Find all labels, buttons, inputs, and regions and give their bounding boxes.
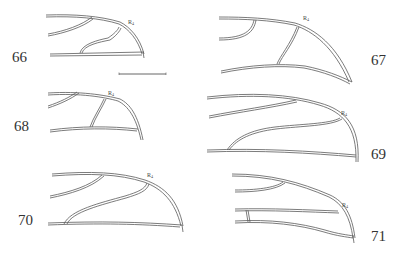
- wing-drawing-70: R4: [48, 172, 183, 232]
- vein-label-r4: R4: [342, 202, 348, 209]
- wing-drawing-67: R4: [219, 15, 352, 84]
- vein-label-r4: R4: [303, 15, 309, 22]
- figure-number-67: 67: [371, 52, 386, 69]
- wing-venation-figure: R4 R4 R4 R4: [0, 0, 409, 254]
- figure-number-71: 71: [371, 228, 386, 245]
- scale-bar: [119, 73, 166, 76]
- figure-number-69: 69: [371, 146, 386, 163]
- vein-label-r4: R4: [341, 110, 347, 117]
- vein-label-r4: R4: [147, 172, 153, 179]
- figure-number-70: 70: [18, 212, 33, 229]
- wing-drawing-68: R4: [48, 90, 143, 140]
- wing-drawing-66: R4: [46, 15, 144, 58]
- figure-number-66: 66: [12, 49, 27, 66]
- figure-number-68: 68: [14, 118, 29, 135]
- vein-label-r4: R4: [128, 19, 134, 26]
- vein-label-r4: R4: [108, 90, 114, 97]
- wing-drawing-71: R4: [232, 174, 355, 243]
- wing-drawing-69: R4: [207, 94, 358, 162]
